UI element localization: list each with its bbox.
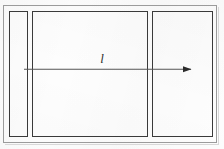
dimension-label: l [95, 52, 109, 66]
dimension-arrow [24, 62, 196, 78]
figure-canvas: l [0, 0, 224, 149]
